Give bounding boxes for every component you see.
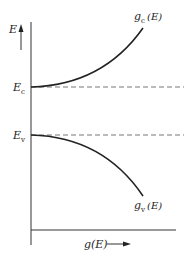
gc-curve xyxy=(31,28,143,87)
svg-text:(E): (E) xyxy=(147,200,162,211)
svg-text:c: c xyxy=(141,17,145,25)
density-of-states-diagram: E E c E v g c (E) g v (E) g(E) xyxy=(0,0,192,256)
svg-text:E: E xyxy=(12,81,21,94)
gc-label: g c (E) xyxy=(134,10,162,25)
density-axis-label: g(E) xyxy=(84,238,108,251)
ev-label: E v xyxy=(12,129,25,144)
svg-text:g: g xyxy=(134,199,141,212)
svg-text:v: v xyxy=(20,136,25,144)
density-right-arrow-icon xyxy=(107,242,131,247)
svg-text:E: E xyxy=(12,129,21,142)
gv-curve xyxy=(31,135,143,196)
svg-text:c: c xyxy=(21,88,25,96)
ec-label: E c xyxy=(12,81,25,96)
energy-axis-label: E xyxy=(8,23,17,36)
gv-label: g v (E) xyxy=(134,199,162,214)
svg-text:g: g xyxy=(134,10,141,23)
energy-up-arrow-icon xyxy=(19,24,24,50)
svg-text:v: v xyxy=(140,206,145,214)
svg-text:(E): (E) xyxy=(147,11,162,22)
